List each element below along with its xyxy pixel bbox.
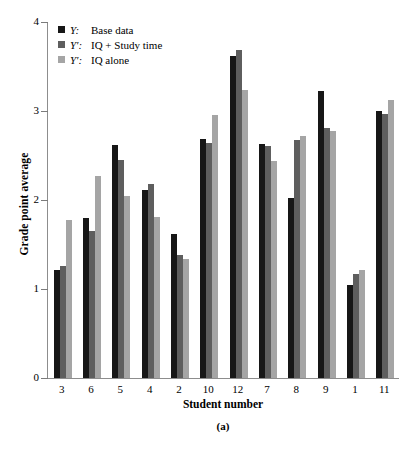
bar <box>66 220 72 378</box>
y-axis-tick-label: 4 <box>19 16 39 27</box>
x-axis-line <box>47 378 399 379</box>
bar-chart-figure: Grade point average 01234 36542101278911… <box>0 0 414 451</box>
bar-group <box>259 22 277 378</box>
x-axis-tick-label: 3 <box>47 384 77 395</box>
bar-group <box>288 22 306 378</box>
x-axis-tick-label: 1 <box>340 384 370 395</box>
y-axis-tick-label: 2 <box>19 194 39 205</box>
y-axis-tick <box>41 289 48 290</box>
bar-group <box>112 22 130 378</box>
bar <box>242 90 248 378</box>
legend-swatch-icon <box>58 26 65 33</box>
x-axis-tick-label: 2 <box>164 384 194 395</box>
y-axis-tick-label: 0 <box>19 372 39 383</box>
bar-groups <box>48 22 399 378</box>
bar <box>212 115 218 378</box>
bar <box>300 136 306 378</box>
bar-group <box>142 22 160 378</box>
bar <box>183 259 189 378</box>
legend-item: Y:Base data <box>58 22 248 37</box>
figure-caption: (a) <box>47 420 399 432</box>
x-axis-tick-label: 11 <box>369 384 399 395</box>
x-axis-tick-label: 7 <box>252 384 282 395</box>
bar-group <box>171 22 189 378</box>
y-axis-tick-label: 1 <box>19 283 39 294</box>
legend-symbol: Y′: <box>70 54 87 66</box>
legend-symbol: Y′: <box>70 39 87 51</box>
legend-label: IQ + Study time <box>91 39 162 51</box>
bar-group <box>347 22 365 378</box>
x-axis-tick-label: 10 <box>193 384 223 395</box>
bar-group <box>83 22 101 378</box>
y-axis-tick <box>41 111 48 112</box>
bar-group <box>54 22 72 378</box>
x-axis-tick-label: 4 <box>135 384 165 395</box>
legend-item: Y′:IQ + Study time <box>58 37 248 52</box>
bar <box>330 131 336 378</box>
x-axis-tick-label: 9 <box>311 384 341 395</box>
bar-group <box>230 22 248 378</box>
x-axis-tick-label: 12 <box>223 384 253 395</box>
x-axis-tick-label: 6 <box>76 384 106 395</box>
bar <box>124 196 130 378</box>
y-axis-tick-label: 3 <box>19 105 39 116</box>
bar-group <box>200 22 218 378</box>
legend-item: Y′:IQ alone <box>58 52 248 67</box>
bar <box>154 217 160 378</box>
bar <box>359 270 365 378</box>
legend-swatch-icon <box>58 56 65 63</box>
bar-group <box>318 22 336 378</box>
bar <box>271 161 277 378</box>
plot-area: 01234 365421012789111 <box>47 22 399 378</box>
chart-legend: Y:Base dataY′:IQ + Study timeY′:IQ alone <box>58 22 248 67</box>
legend-swatch-icon <box>58 41 65 48</box>
x-axis-tick-label: 5 <box>105 384 135 395</box>
x-axis-tick-label: 8 <box>281 384 311 395</box>
bar <box>388 100 394 378</box>
x-axis-title: Student number <box>47 398 399 410</box>
legend-symbol: Y: <box>70 24 87 36</box>
y-axis-tick <box>41 378 48 379</box>
legend-label: Base data <box>91 24 133 36</box>
y-axis-tick <box>41 22 48 23</box>
y-axis-tick <box>41 200 48 201</box>
legend-label: IQ alone <box>91 54 129 66</box>
bar <box>95 176 101 378</box>
bar-group <box>376 22 394 378</box>
